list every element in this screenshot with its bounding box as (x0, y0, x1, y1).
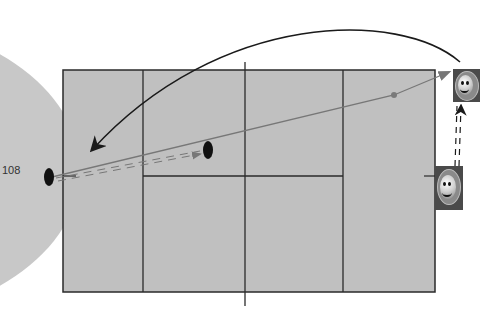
ball-short-midcourt (203, 141, 213, 159)
player-movement-right-b (459, 106, 461, 166)
smiley-player-icon (435, 166, 463, 210)
ball-left-baseline (44, 168, 54, 186)
tennis-court-diagram (0, 0, 499, 327)
player-movement-right-a (455, 106, 457, 166)
smiley-player-icon (453, 69, 480, 102)
shot-bounce-dot (391, 92, 397, 98)
court-surface (63, 70, 435, 292)
